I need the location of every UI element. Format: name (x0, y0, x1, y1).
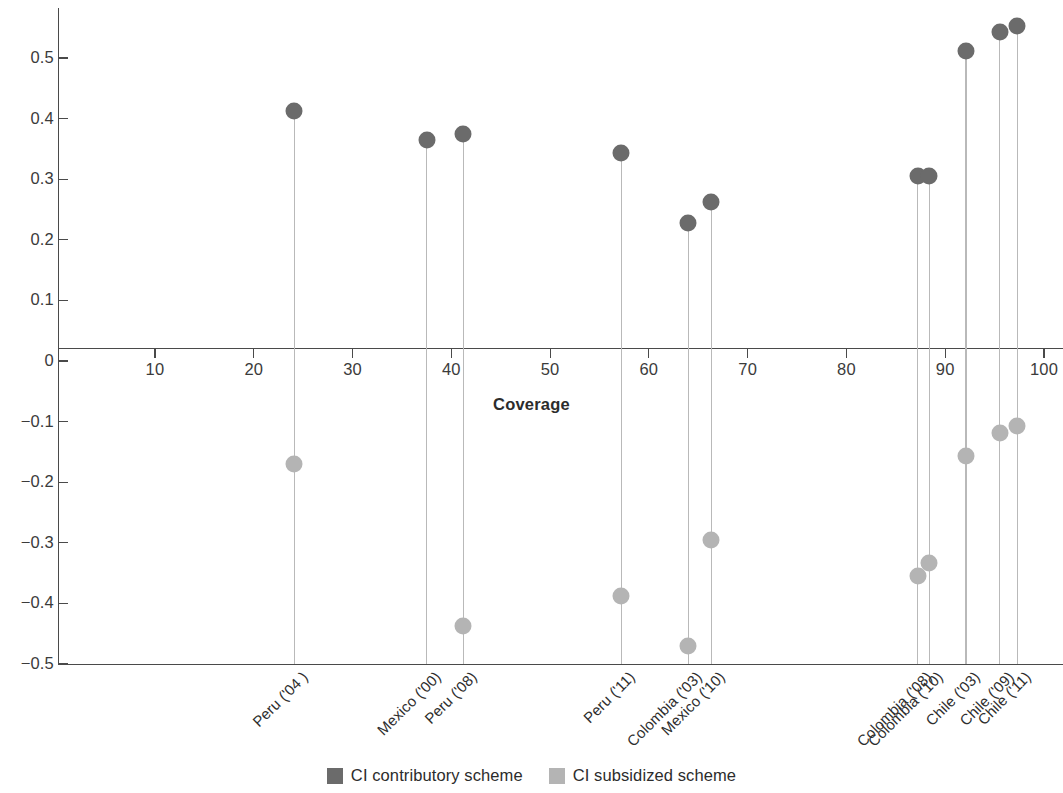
x-tick-mark (648, 349, 649, 358)
y-tick-label: 0.3 (30, 169, 54, 188)
x-tick-label: 30 (343, 360, 362, 379)
legend-entry: CI contributory scheme (327, 766, 523, 785)
stem-line (929, 176, 930, 664)
concentration-index-scatter-figure: 0.50.40.30.20.10−0.1−0.2−0.3−0.4−0.5 102… (0, 0, 1063, 793)
stem-line (688, 223, 689, 664)
x-tick-mark (253, 349, 254, 358)
y-tick-mark (59, 542, 68, 543)
category-label: Peru ('04 ) (249, 668, 311, 730)
data-point-subsidized (909, 568, 926, 585)
chart-legend: CI contributory schemeCI subsidized sche… (0, 766, 1063, 785)
data-point-contributory (991, 23, 1008, 40)
y-tick-label: −0.5 (21, 654, 54, 673)
data-point-contributory (921, 167, 938, 184)
y-tick-label: −0.4 (21, 593, 54, 612)
x-tick-label: 20 (244, 360, 263, 379)
data-point-subsidized (957, 447, 974, 464)
data-point-contributory (613, 145, 630, 162)
data-point-subsidized (921, 554, 938, 571)
data-point-contributory (286, 102, 303, 119)
y-axis-line (58, 8, 59, 664)
x-tick-label: 100 (1030, 360, 1058, 379)
stem-line (999, 32, 1000, 664)
x-tick-label: 40 (442, 360, 461, 379)
stem-line (711, 202, 712, 664)
y-tick-mark (59, 57, 68, 58)
data-point-subsidized (286, 456, 303, 473)
x-axis-bottom-line (58, 664, 1063, 665)
y-tick-label: 0.2 (30, 230, 54, 249)
category-label: Peru ('11) (580, 668, 638, 726)
data-point-subsidized (991, 425, 1008, 442)
legend-swatch-icon (549, 768, 565, 784)
x-tick-mark (1043, 349, 1044, 358)
data-point-contributory (455, 126, 472, 143)
y-tick-label: 0.1 (30, 290, 54, 309)
y-tick-mark (59, 603, 68, 604)
y-tick-mark (59, 663, 68, 664)
x-tick-mark (747, 349, 748, 358)
y-tick-mark (59, 421, 68, 422)
legend-label: CI contributory scheme (351, 766, 523, 785)
x-tick-mark (154, 349, 155, 358)
x-tick-label: 10 (146, 360, 165, 379)
y-tick-mark (59, 118, 68, 119)
x-tick-mark (352, 349, 353, 358)
y-tick-mark (59, 360, 68, 361)
x-axis-zero-line (58, 348, 1063, 349)
stem-line (1017, 26, 1018, 664)
stem-line (917, 176, 918, 664)
y-tick-mark (59, 239, 68, 240)
plot-area: 0.50.40.30.20.10−0.1−0.2−0.3−0.4−0.5 102… (0, 0, 1063, 793)
data-point-contributory (418, 131, 435, 148)
y-tick-label: 0.4 (30, 109, 54, 128)
data-point-contributory (680, 214, 697, 231)
data-point-subsidized (455, 617, 472, 634)
data-point-subsidized (613, 588, 630, 605)
x-tick-label: 50 (541, 360, 560, 379)
x-tick-label: 70 (738, 360, 757, 379)
x-tick-mark (550, 349, 551, 358)
y-tick-label: −0.2 (21, 472, 54, 491)
x-tick-label: 80 (837, 360, 856, 379)
stem-line (294, 111, 295, 664)
x-axis-title: Coverage (0, 395, 1063, 414)
data-point-subsidized (1009, 418, 1026, 435)
y-tick-mark (59, 482, 68, 483)
stem-line (965, 51, 966, 664)
legend-swatch-icon (327, 768, 343, 784)
data-point-contributory (703, 193, 720, 210)
data-point-subsidized (680, 637, 697, 654)
y-tick-mark (59, 179, 68, 180)
x-tick-mark (451, 349, 452, 358)
legend-entry: CI subsidized scheme (549, 766, 736, 785)
data-point-contributory (1009, 17, 1026, 34)
y-tick-label: −0.1 (21, 412, 54, 431)
y-tick-mark (59, 300, 68, 301)
y-tick-label: 0.5 (30, 48, 54, 67)
legend-label: CI subsidized scheme (573, 766, 736, 785)
data-point-subsidized (703, 532, 720, 549)
data-point-contributory (957, 42, 974, 59)
x-tick-mark (846, 349, 847, 358)
x-tick-label: 90 (936, 360, 955, 379)
x-tick-mark (945, 349, 946, 358)
y-tick-label: −0.3 (21, 533, 54, 552)
x-tick-label: 60 (639, 360, 658, 379)
y-tick-label: 0 (45, 351, 54, 370)
